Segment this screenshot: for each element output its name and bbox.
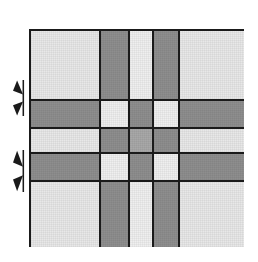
cell-r4c3 bbox=[130, 154, 152, 180]
arrow-head-lower bbox=[13, 102, 23, 116]
figure-root bbox=[0, 0, 258, 262]
cell-r5c1 bbox=[31, 182, 99, 247]
double-arrow-right-icon bbox=[12, 80, 29, 116]
grid-panel bbox=[29, 29, 244, 247]
cell-r3c1 bbox=[31, 129, 99, 152]
cell-r5c5 bbox=[180, 182, 244, 247]
cell-r3c2 bbox=[101, 129, 128, 152]
cell-r5c3 bbox=[130, 182, 152, 247]
cell-r5c4 bbox=[154, 182, 178, 247]
cell-r2c3 bbox=[130, 101, 152, 127]
cell-r1c2 bbox=[101, 31, 128, 99]
cell-r2c2 bbox=[101, 101, 128, 127]
cell-r3c3 bbox=[130, 129, 152, 152]
cell-r2c1 bbox=[31, 101, 99, 127]
cell-r1c1 bbox=[31, 31, 99, 99]
band-marker-upper bbox=[12, 80, 29, 116]
cell-r4c1 bbox=[31, 154, 99, 180]
cell-r2c4 bbox=[154, 101, 178, 127]
cell-r3c4 bbox=[154, 129, 178, 152]
cell-r4c4 bbox=[154, 154, 178, 180]
cell-r1c5 bbox=[180, 31, 244, 99]
arrow-head-lower bbox=[13, 175, 23, 191]
cell-r2c5 bbox=[180, 101, 244, 127]
arrow-head-upper bbox=[13, 151, 23, 167]
arrow-head-upper bbox=[13, 81, 23, 95]
cell-r4c2 bbox=[101, 154, 128, 180]
cell-r4c5 bbox=[180, 154, 244, 180]
cell-r5c2 bbox=[101, 182, 128, 247]
cell-r1c3 bbox=[130, 31, 152, 99]
double-arrow-right-icon bbox=[12, 150, 29, 192]
band-marker-lower bbox=[12, 150, 29, 192]
cell-r3c5 bbox=[180, 129, 244, 152]
cell-r1c4 bbox=[154, 31, 178, 99]
